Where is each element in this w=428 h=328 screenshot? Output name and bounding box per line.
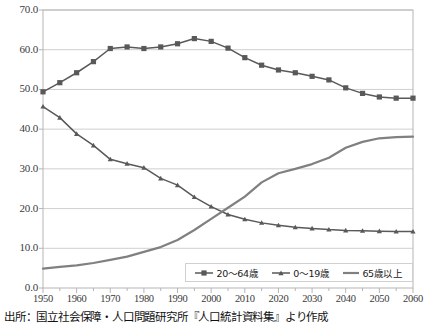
y-axis-tick-label: 60.0 — [2, 43, 38, 55]
series-marker-0 — [91, 59, 96, 64]
series-marker-0 — [108, 46, 113, 51]
y-axis-tick-label: 40.0 — [2, 122, 38, 134]
series-marker-0 — [360, 91, 365, 96]
series-marker-0 — [377, 94, 382, 99]
series-marker-0 — [343, 85, 348, 90]
series-marker-0 — [141, 46, 146, 51]
series-marker-0 — [242, 55, 247, 60]
series-marker-0 — [40, 89, 45, 94]
y-axis-tick-label: 20.0 — [2, 202, 38, 214]
series-marker-0 — [410, 96, 415, 101]
legend-entry-0[interactable]: 20〜64歳 — [195, 266, 258, 280]
y-axis-tick-label: 70.0 — [2, 3, 38, 15]
legend-swatch-square-icon — [195, 268, 213, 278]
series-marker-0 — [192, 36, 197, 41]
legend-label: 20〜64歳 — [216, 266, 258, 280]
series-marker-0 — [57, 80, 62, 85]
y-axis-tick-label: 10.0 — [2, 241, 38, 253]
y-axis-tick-label: 50.0 — [2, 82, 38, 94]
series-marker-0 — [225, 46, 230, 51]
y-axis-tick-label: 30.0 — [2, 162, 38, 174]
legend-swatch-line-icon — [343, 268, 359, 278]
series-marker-0 — [309, 74, 314, 79]
series-marker-0 — [209, 39, 214, 44]
series-marker-0 — [259, 63, 264, 68]
legend-label: 0〜19歳 — [293, 266, 329, 280]
x-axis-tick-label: 2060 — [393, 293, 428, 304]
legend-label: 65歳以上 — [362, 266, 402, 280]
series-marker-0 — [293, 70, 298, 75]
chart-legend: 20〜64歳0〜19歳65歳以上 — [185, 263, 413, 282]
series-marker-0 — [326, 77, 331, 82]
legend-marker — [202, 270, 207, 275]
source-caption: 出所：国立社会保障・人口問題研究所『人口統計資料集』より作成 — [4, 308, 328, 324]
series-marker-0 — [124, 44, 129, 49]
series-marker-0 — [175, 41, 180, 46]
series-marker-0 — [158, 44, 163, 49]
legend-swatch-triangle-icon — [272, 268, 290, 278]
chart-plot-area: 0.010.020.030.040.050.060.070.0195019601… — [0, 0, 420, 306]
series-marker-1 — [40, 104, 45, 109]
legend-entry-1[interactable]: 0〜19歳 — [272, 266, 329, 280]
series-marker-0 — [276, 67, 281, 72]
y-axis-tick-label: 0.0 — [2, 281, 38, 293]
series-marker-0 — [394, 96, 399, 101]
series-marker-0 — [74, 70, 79, 75]
line-chart-svg — [0, 0, 420, 306]
legend-entry-2[interactable]: 65歳以上 — [343, 266, 402, 280]
